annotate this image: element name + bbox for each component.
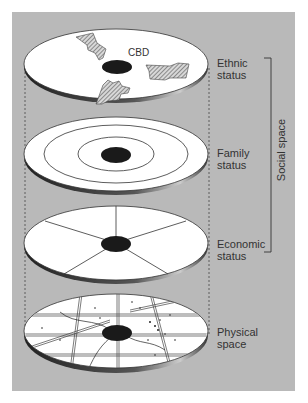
label-line: Family bbox=[217, 147, 249, 159]
label-line: Ethnic bbox=[217, 57, 248, 69]
cbd-marker bbox=[101, 236, 131, 252]
ethnic-status-label: Ethnic status bbox=[217, 57, 248, 81]
cbd-marker bbox=[102, 325, 132, 341]
cbd-marker bbox=[101, 147, 131, 163]
label-line: status bbox=[217, 159, 249, 171]
label-line: status bbox=[217, 69, 248, 81]
cbd-marker bbox=[102, 60, 132, 74]
social-space-bracket bbox=[264, 58, 271, 252]
label-line: status bbox=[217, 250, 265, 262]
label-line: Economic bbox=[217, 238, 265, 250]
layered-discs-diagram: CBD bbox=[0, 0, 308, 403]
social-space-label: Social space bbox=[275, 119, 287, 181]
family-status-disc bbox=[24, 117, 208, 195]
label-line: space bbox=[217, 338, 258, 350]
economic-status-label: Economic status bbox=[217, 238, 265, 262]
physical-space-disc bbox=[20, 294, 210, 373]
ethnic-status-disc: CBD bbox=[24, 29, 208, 104]
cbd-label: CBD bbox=[128, 47, 149, 58]
economic-status-disc bbox=[24, 206, 208, 284]
family-status-label: Family status bbox=[217, 147, 249, 171]
label-line: Physical bbox=[217, 326, 258, 338]
physical-space-label: Physical space bbox=[217, 326, 258, 350]
